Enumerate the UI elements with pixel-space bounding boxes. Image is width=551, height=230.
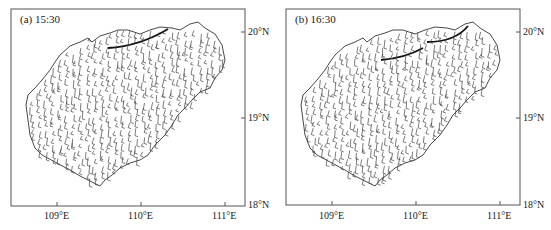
panel-b: (b) 16:30 20°N 19°N 18°N 109°E 110°E 111… — [275, 0, 550, 230]
panel-title-a: (a) 15:30 — [20, 13, 60, 25]
y-tick-20n-a: 20°N — [248, 26, 269, 37]
x-tick-110e-b: 110°E — [403, 210, 428, 221]
hainan-outline-b — [301, 22, 500, 186]
x-tick-109e-b: 109°E — [319, 210, 344, 221]
y-tick-18n-a: 18°N — [248, 199, 269, 210]
y-tick-20n-b: 20°N — [523, 26, 544, 37]
map-panel-a — [0, 0, 275, 230]
front-line-b1 — [381, 48, 423, 60]
x-tick-109e-a: 109°E — [44, 210, 69, 221]
y-tick-18n-b: 18°N — [523, 199, 544, 210]
map-panel-b — [275, 0, 551, 230]
x-tick-111e-a: 111°E — [212, 210, 236, 221]
x-tick-111e-b: 111°E — [487, 210, 511, 221]
y-tick-19n-a: 19°N — [248, 112, 269, 123]
wind-barbs-b — [305, 30, 498, 185]
y-tick-19n-b: 19°N — [523, 112, 544, 123]
panel-title-b: (b) 16:30 — [295, 13, 336, 25]
ticks-a — [57, 32, 245, 206]
frame-a — [11, 9, 245, 206]
panel-a: (a) 15:30 20°N 19°N 18°N 109°E 110°E 111… — [0, 0, 275, 230]
frame-b — [286, 9, 520, 205]
x-tick-110e-a: 110°E — [128, 210, 153, 221]
